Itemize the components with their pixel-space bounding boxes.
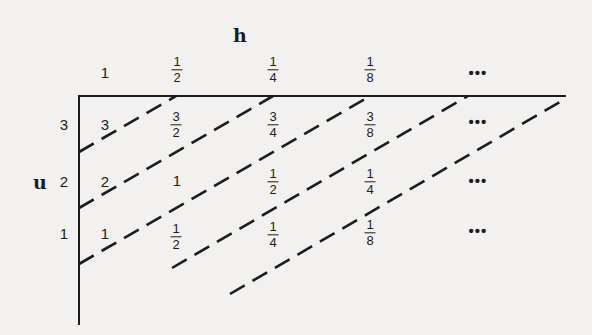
cell-r1-c3: 1 4 (268, 220, 279, 249)
row-header-3: 3 (60, 117, 68, 132)
numerator: 1 (268, 55, 277, 69)
row-header-2: 2 (60, 174, 68, 189)
numerator: 1 (172, 55, 181, 69)
numerator: 3 (365, 110, 374, 124)
dashed-diagonal-lines (79, 96, 565, 294)
diagram-lines (0, 0, 592, 335)
cell-r2-c4: 1 4 (365, 167, 376, 196)
cell-r2-c2: 1 (173, 173, 181, 188)
cell-r2-c3: 1 2 (268, 167, 279, 196)
cell-r3-ellipsis: ••• (469, 114, 488, 129)
dashed-diagonal-5 (230, 99, 565, 294)
cell-r2-ellipsis: ••• (469, 173, 488, 188)
numerator: 1 (365, 218, 374, 232)
u-axis-title: u (33, 173, 47, 192)
numerator: 1 (365, 55, 374, 69)
col-header-ellipsis: ••• (469, 65, 488, 80)
col-header-half: 1 2 (172, 55, 183, 84)
denominator: 2 (269, 183, 276, 197)
cell-r3-c3: 3 4 (268, 110, 279, 139)
denominator: 2 (173, 71, 180, 85)
row-header-1: 1 (60, 226, 68, 241)
col-header-quarter: 1 4 (268, 55, 279, 84)
col-header-1: 1 (101, 65, 109, 80)
denominator: 8 (366, 234, 373, 248)
cell-r3-c4: 3 8 (365, 110, 376, 139)
numerator: 1 (268, 220, 277, 234)
cell-r1-c1: 1 (101, 226, 109, 241)
col-header-eighth: 1 8 (365, 55, 376, 84)
denominator: 8 (366, 71, 373, 85)
denominator: 8 (366, 126, 373, 140)
numerator: 1 (268, 167, 277, 181)
numerator: 1 (365, 167, 374, 181)
cell-r1-c2: 1 2 (171, 222, 182, 251)
denominator: 4 (269, 236, 276, 250)
cell-r1-c4: 1 8 (365, 218, 376, 247)
denominator: 4 (366, 183, 373, 197)
numerator: 1 (171, 222, 180, 236)
dashed-diagonal-1 (79, 96, 176, 152)
cell-r1-ellipsis: ••• (469, 223, 488, 238)
cell-r3-c2: 3 2 (171, 110, 182, 139)
denominator: 4 (269, 71, 276, 85)
denominator: 4 (269, 126, 276, 140)
denominator: 2 (172, 126, 179, 140)
diagram-canvas: h u 1 1 2 1 4 1 8 ••• 3 2 1 3 3 2 3 4 3 … (0, 0, 592, 335)
cell-r3-c1: 3 (101, 117, 109, 132)
numerator: 3 (268, 110, 277, 124)
denominator: 2 (172, 238, 179, 252)
h-axis-title: h (233, 26, 247, 45)
cell-r2-c1: 2 (101, 174, 109, 189)
numerator: 3 (171, 110, 180, 124)
